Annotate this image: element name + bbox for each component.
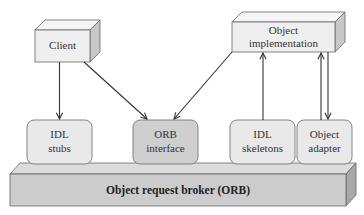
orb-bar-top (10, 163, 356, 174)
object-implementation-box-top (232, 12, 345, 22)
client-box-top (35, 20, 100, 30)
orb-interface-label-line1: ORB (154, 128, 177, 140)
client-box: Client (35, 20, 100, 62)
idl-skeletons-label-line2: skeletons (242, 142, 283, 154)
object-adapter-label-line1: Object (310, 128, 339, 140)
edge-client-to-orb-interface (84, 62, 147, 119)
orb-interface-box: ORB interface (133, 120, 198, 164)
client-label: Client (49, 39, 76, 51)
edge-object-implementation-to-orb-interface (174, 52, 232, 119)
idl-stubs-label-line1: IDL (50, 128, 69, 140)
object-adapter-label-line2: adapter (308, 142, 341, 154)
orb-interface-label-line2: interface (146, 142, 185, 154)
idl-stubs-box: IDL stubs (27, 120, 92, 164)
object-adapter-box: Object adapter (297, 120, 352, 164)
orb-label: Object request broker (ORB) (106, 184, 250, 197)
idl-skeletons-box: IDL skeletons (230, 120, 295, 164)
orb-bar: Object request broker (ORB) (10, 163, 356, 206)
corba-architecture-diagram: Object request broker (ORB) IDL stubs OR… (0, 0, 364, 215)
idl-skeletons-label-line1: IDL (253, 128, 272, 140)
object-implementation-box: Object implementation (232, 12, 345, 52)
object-implementation-label-line2: implementation (249, 37, 319, 49)
idl-stubs-label-line2: stubs (48, 142, 71, 154)
object-implementation-label-line1: Object (269, 24, 298, 36)
